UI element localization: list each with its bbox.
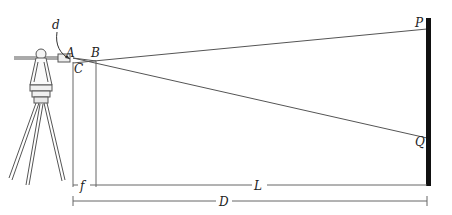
label-l: L <box>253 179 262 193</box>
label-c: C <box>74 62 83 76</box>
label-b: B <box>90 46 100 60</box>
sight-line-to-p <box>73 29 427 63</box>
label-d-distance: D <box>218 195 229 209</box>
theodolite-instrument-icon <box>9 49 70 185</box>
label-q: Q <box>415 135 425 149</box>
stadia-rod <box>426 18 431 186</box>
stadia-diagram: d A B C P Q f L D <box>0 0 452 215</box>
label-p: P <box>414 16 424 30</box>
sight-line-to-q <box>73 58 427 138</box>
label-d: d <box>52 18 60 32</box>
label-f: f <box>79 179 87 193</box>
label-a: A <box>65 46 75 60</box>
